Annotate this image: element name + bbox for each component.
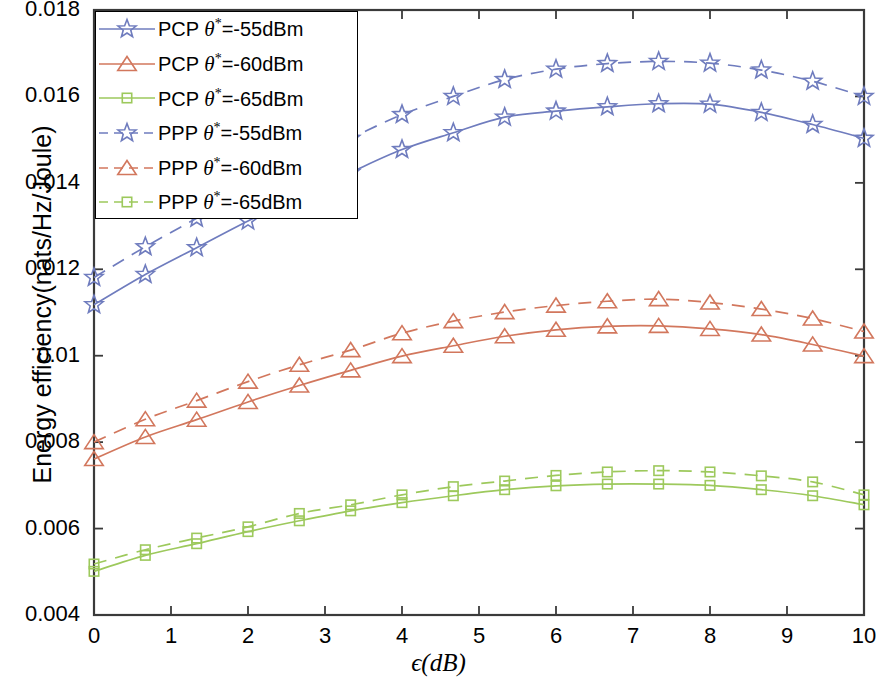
y-tick-label: 0.008 [0,428,80,454]
y-tick-label: 0.014 [0,169,80,195]
x-axis-label-text: ϵ(dB) [411,649,466,676]
legend-label-prefix: PPP [158,122,203,144]
x-tick-label: 10 [834,623,877,649]
legend-marker-star-icon [96,116,158,150]
legend-label-star: * [214,189,221,204]
x-tick-label: 4 [372,623,432,649]
x-tick-label: 2 [218,623,278,649]
legend-label-suffix: =-65dBm [221,191,303,213]
x-tick-label: 1 [141,623,201,649]
legend-label-star: * [215,16,222,31]
legend-label-star: * [215,51,222,66]
legend-item-label: PPP θ*=-65dBm [158,189,302,215]
legend-marker-star-icon [96,12,158,46]
legend-label-star: * [214,155,221,170]
x-tick-label: 5 [449,623,509,649]
y-tick-label: 0.012 [0,255,80,281]
legend-label-suffix: =-55dBm [221,122,303,144]
legend-label-theta: θ [203,156,213,180]
legend-label-theta: θ [204,86,214,110]
legend-marker-square-icon [96,81,158,115]
y-tick-label: 0.006 [0,515,80,541]
legend-label-prefix: PCP [158,18,204,40]
legend-item-label: PCP θ*=-55dBm [158,16,303,42]
legend-label-suffix: =-60dBm [222,53,304,75]
legend-item[interactable]: PPP θ*=-65dBm [96,185,357,220]
legend-item-label: PCP θ*=-60dBm [158,51,303,77]
legend-item-label: PCP θ*=-65dBm [158,86,303,112]
chart-legend: PCP θ*=-55dBmPCP θ*=-60dBmPCP θ*=-65dBmP… [95,11,358,219]
legend-label-theta: θ [203,190,213,214]
x-tick-label: 6 [526,623,586,649]
legend-label-suffix: =-60dBm [221,157,303,179]
series-1 [85,318,873,465]
legend-label-suffix: =-55dBm [222,18,304,40]
x-tick-label: 9 [757,623,817,649]
legend-item[interactable]: PCP θ*=-65dBm [96,81,357,116]
legend-label-theta: θ [204,52,214,76]
legend-item[interactable]: PPP θ*=-55dBm [96,116,357,151]
legend-marker-triangle-icon [96,151,158,185]
x-tick-label: 8 [680,623,740,649]
series-5 [89,466,868,569]
x-tick-label: 7 [603,623,663,649]
legend-marker-square-icon [96,185,158,219]
figure-container: Energy efficiency(nats/Hz/Joule) ϵ(dB) 0… [0,0,877,691]
x-tick-label: 3 [295,623,355,649]
legend-label-prefix: PCP [158,53,204,75]
legend-label-star: * [214,120,221,135]
x-axis-label: ϵ(dB) [0,648,877,677]
series-4 [85,292,873,449]
legend-item[interactable]: PPP θ*=-60dBm [96,150,357,185]
legend-label-prefix: PCP [158,87,204,109]
legend-marker-triangle-icon [96,47,158,81]
legend-label-star: * [215,86,222,101]
y-tick-label: 0.018 [0,0,80,22]
x-tick-label: 0 [64,623,124,649]
legend-item-label: PPP θ*=-60dBm [158,155,302,181]
y-tick-label: 0.016 [0,82,80,108]
legend-item[interactable]: PCP θ*=-60dBm [96,47,357,82]
y-tick-label: 0.01 [0,342,80,368]
legend-label-prefix: PPP [158,191,203,213]
series-2 [89,479,868,576]
legend-item[interactable]: PCP θ*=-55dBm [96,12,357,47]
legend-label-suffix: =-65dBm [222,87,304,109]
legend-item-label: PPP θ*=-55dBm [158,120,302,146]
legend-label-theta: θ [204,17,214,41]
legend-label-prefix: PPP [158,157,203,179]
legend-label-theta: θ [203,121,213,145]
